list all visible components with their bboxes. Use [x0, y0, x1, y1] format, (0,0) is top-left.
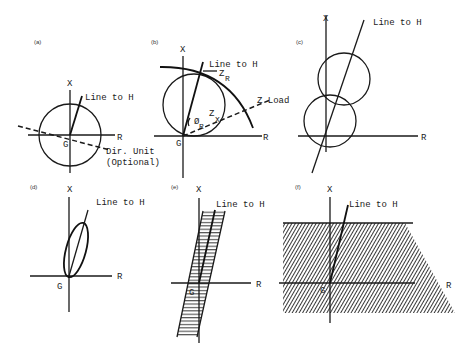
panel-d: (d) X Line to H R G [30, 184, 145, 312]
line-to-h [69, 210, 88, 276]
panel-f: (f) X Line to H R G [279, 184, 455, 323]
x-label: X [327, 185, 333, 195]
g-label: G [189, 288, 194, 298]
phi-sub: R [199, 122, 204, 131]
load-arc [160, 67, 253, 128]
r-label: R [263, 133, 269, 143]
line-to-h-label: Line to H [373, 18, 422, 28]
dir-unit-optional-label: (Optional) [106, 158, 160, 168]
g-label: G [320, 286, 325, 296]
x-label: X [323, 14, 329, 24]
g-label: G [63, 140, 68, 150]
x-label: X [196, 185, 202, 195]
line-to-h-label: Line to H [349, 200, 398, 210]
line-to-h [70, 96, 82, 135]
reactance-region-hatch [283, 223, 455, 313]
line-to-h-label: Line to H [209, 60, 258, 70]
panel-d-tag: (d) [30, 184, 37, 190]
panel-b: (b) X Line to H Z R Z Load Z X Ø R R G [151, 39, 289, 178]
z-load-label: Z Load [257, 96, 289, 106]
panel-a-tag: (a) [34, 39, 41, 45]
line-to-h-label: Line to H [216, 200, 265, 210]
dir-unit-label: Dir. Unit [106, 147, 155, 157]
line-to-h-label: Line to H [96, 198, 145, 208]
panel-a: (a) X Line to H R G Dir. Unit (Optional) [18, 39, 160, 173]
x-label: X [180, 45, 186, 55]
zr-sub: R [225, 74, 230, 83]
panel-c-tag: (c) [296, 39, 303, 45]
zx-sub: X [215, 115, 220, 124]
g-label: G [176, 139, 181, 149]
relay-characteristics-figure: (a) X Line to H R G Dir. Unit (Optional)… [0, 0, 474, 359]
panel-f-tag: (f) [295, 184, 301, 190]
r-label: R [117, 133, 123, 143]
panel-c: (c) X Line to H R [296, 14, 427, 173]
panel-e: (e) X Line to H R G [171, 184, 265, 343]
r-label: R [256, 280, 262, 290]
r-label: R [446, 281, 452, 291]
line-to-h-label: Line to H [85, 93, 134, 103]
g-label: G [57, 282, 62, 292]
panel-b-tag: (b) [151, 39, 158, 45]
r-label: R [117, 272, 123, 282]
x-label: X [67, 185, 73, 195]
r-label: R [421, 133, 427, 143]
panel-e-tag: (e) [171, 184, 178, 190]
x-label: X [67, 79, 73, 89]
